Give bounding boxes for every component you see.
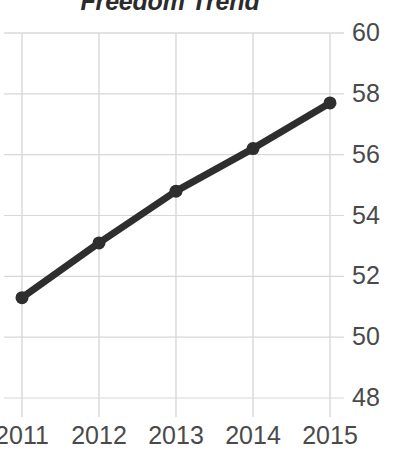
line-chart-svg (0, 0, 395, 457)
plot-area (0, 0, 395, 457)
y-axis-tick-label: 60 (352, 20, 395, 45)
y-axis-tick-label: 54 (352, 203, 395, 228)
x-axis-tick-label: 2015 (285, 423, 375, 448)
y-axis-tick-label: 58 (352, 81, 395, 106)
data-point-marker (16, 291, 29, 304)
data-point-marker (324, 96, 337, 109)
horizontal-gridlines (4, 33, 344, 398)
data-point-marker (170, 185, 183, 198)
chart-container: Freedom Trend 60585654525048 20112012201… (0, 0, 395, 457)
data-point-marker (247, 142, 260, 155)
y-axis-tick-label: 52 (352, 263, 395, 288)
y-axis-tick-label: 50 (352, 324, 395, 349)
y-axis-tick-label: 56 (352, 142, 395, 167)
y-axis-tick-label: 48 (352, 385, 395, 410)
vertical-gridlines (22, 33, 330, 417)
data-point-marker (93, 236, 106, 249)
